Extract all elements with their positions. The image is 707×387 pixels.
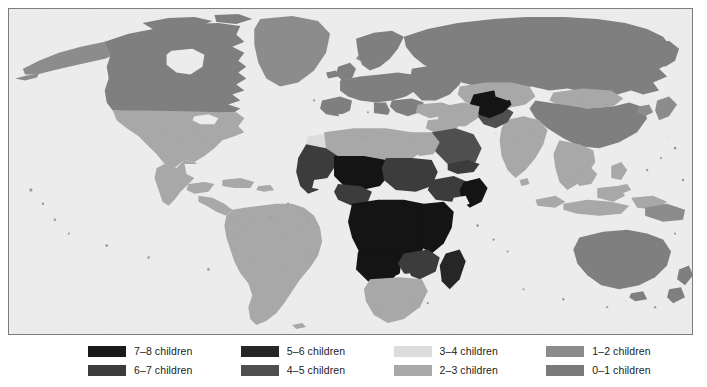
legend-swatch-5-6 [241,346,279,357]
map-legend: 7–8 children 5–6 children 3–4 children 1… [8,341,693,383]
legend-item-6-7: 6–7 children [88,362,235,379]
legend-swatch-4-5 [241,365,279,376]
legend-item-1-2: 1–2 children [546,343,693,360]
legend-swatch-2-3 [394,365,432,376]
world-fertility-map-figure: 7–8 children 5–6 children 3–4 children 1… [0,0,707,387]
legend-label-1-2: 1–2 children [592,346,650,357]
legend-swatch-7-8 [88,346,126,357]
legend-item-5-6: 5–6 children [241,343,388,360]
legend-label-0-1: 0–1 children [592,365,650,376]
map-panel [8,8,693,335]
world-map-svg [9,9,692,334]
legend-swatch-1-2 [546,346,584,357]
legend-item-0-1: 0–1 children [546,362,693,379]
legend-item-2-3: 2–3 children [394,362,541,379]
legend-label-7-8: 7–8 children [134,346,192,357]
legend-swatch-0-1 [546,365,584,376]
legend-label-5-6: 5–6 children [287,346,345,357]
legend-item-4-5: 4–5 children [241,362,388,379]
legend-swatch-6-7 [88,365,126,376]
legend-label-3-4: 3–4 children [440,346,498,357]
legend-row-top: 7–8 children 5–6 children 3–4 children 1… [8,343,693,360]
legend-label-6-7: 6–7 children [134,365,192,376]
legend-swatch-3-4 [394,346,432,357]
legend-row-bottom: 6–7 children 4–5 children 2–3 children 0… [8,362,693,379]
legend-label-4-5: 4–5 children [287,365,345,376]
legend-item-7-8: 7–8 children [88,343,235,360]
legend-label-2-3: 2–3 children [440,365,498,376]
legend-item-3-4: 3–4 children [394,343,541,360]
